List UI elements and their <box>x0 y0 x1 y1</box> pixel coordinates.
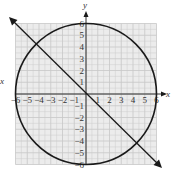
y-tick-label: −5 <box>74 148 84 158</box>
y-tick-label: 2 <box>80 66 85 76</box>
x-tick-label: −4 <box>34 95 44 105</box>
x-tick-label: 3 <box>119 95 124 105</box>
coordinate-plane-figure: x y x −6−5−4−3−2−1123456 654321−1−2−3−4−… <box>0 0 171 171</box>
y-tick-label: −4 <box>74 136 84 146</box>
x-tick-label: 5 <box>143 95 148 105</box>
y-tick-label: −1 <box>74 101 84 111</box>
x-tick-label: −5 <box>22 95 32 105</box>
y-tick-label: 4 <box>80 42 85 52</box>
y-tick-label: 3 <box>80 54 85 64</box>
x-tick-label: 4 <box>131 95 136 105</box>
x-tick-label: 2 <box>107 95 112 105</box>
x-axis-label: x <box>165 89 170 99</box>
x-tick-label: −3 <box>46 95 56 105</box>
y-tick-label: −3 <box>74 124 84 134</box>
y-tick-label: 1 <box>80 77 85 87</box>
y-axis-label: y <box>82 0 87 10</box>
x-left-label: x <box>0 76 4 86</box>
y-tick-label: 5 <box>80 30 85 40</box>
x-tick-label: −2 <box>58 95 68 105</box>
y-axis-arrow-icon <box>84 11 89 17</box>
y-tick-label: −2 <box>74 113 84 123</box>
